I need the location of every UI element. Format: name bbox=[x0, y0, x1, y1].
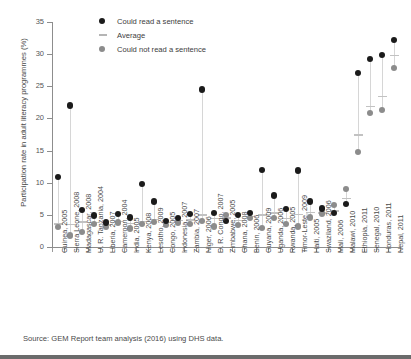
data-point-could-read bbox=[139, 181, 145, 187]
connector-stem bbox=[70, 106, 71, 236]
average-marker bbox=[390, 55, 399, 56]
data-point-could-read bbox=[343, 201, 349, 207]
y-tick-label: 0 bbox=[0, 243, 44, 251]
x-axis-label: Lesotho, 2009 bbox=[157, 207, 164, 253]
data-point-could-read bbox=[199, 86, 205, 92]
x-axis-label: Swaziland, 2006 bbox=[325, 200, 332, 253]
x-axis-label: U. R. Tanzania, 2004 bbox=[97, 186, 104, 253]
y-tick-label: 30 bbox=[0, 50, 44, 58]
x-axis-label: Madagascar, 2008 bbox=[85, 194, 92, 253]
connector-stem bbox=[262, 170, 263, 228]
y-axis-title: Participation rate in adult literacy pro… bbox=[19, 8, 28, 238]
chart-legend: Could read a sentence Average Could not … bbox=[99, 14, 206, 56]
x-axis-label: Timor-Leste, 2009 bbox=[301, 195, 308, 253]
y-tick-label: 25 bbox=[0, 82, 44, 90]
connector-stem bbox=[58, 177, 59, 227]
legend-label-average: Average bbox=[117, 31, 145, 40]
connector-stem bbox=[142, 184, 143, 224]
legend-item-read: Could read a sentence bbox=[99, 14, 206, 28]
x-axis-label: Uganda, 2006 bbox=[277, 208, 284, 253]
average-marker bbox=[366, 106, 375, 107]
x-axis-label: Guinea, 2005 bbox=[61, 210, 68, 253]
x-axis-label: Indonesia, 2007 bbox=[181, 202, 188, 253]
x-axis-label: Zimbabwe, 2005 bbox=[229, 200, 236, 253]
x-axis-label: D. R. Congo, 2007 bbox=[217, 193, 224, 253]
x-tick bbox=[52, 248, 53, 252]
data-point-could-read bbox=[367, 56, 373, 62]
data-point-could-read bbox=[151, 198, 157, 204]
x-axis-label: India, 2005 bbox=[133, 217, 140, 253]
x-axis-label: Congo, 2005 bbox=[169, 212, 176, 253]
data-point-could-not-read bbox=[367, 110, 373, 116]
x-axis-label: Mali, 2006 bbox=[337, 220, 344, 253]
connector-stem bbox=[358, 73, 359, 152]
average-marker bbox=[354, 134, 363, 135]
x-axis-label: Guyana, 2009 bbox=[265, 208, 272, 253]
y-tick-label: 20 bbox=[0, 114, 44, 122]
x-axis-label: Ghana, 2008 bbox=[241, 211, 248, 253]
x-axis-label: Liberia, 2007 bbox=[109, 211, 116, 253]
legend-marker-average-icon bbox=[99, 34, 117, 36]
y-tick-label: 5 bbox=[0, 211, 44, 219]
y-tick-label: 10 bbox=[0, 179, 44, 187]
x-axis-label: Rwanda, 2005 bbox=[289, 207, 296, 253]
data-point-could-read bbox=[295, 167, 301, 173]
data-point-could-not-read bbox=[343, 186, 349, 192]
legend-label-notread: Could not read a sentence bbox=[117, 45, 206, 54]
x-axis-label: Senegal, 2010 bbox=[373, 207, 380, 253]
legend-label-read: Could read a sentence bbox=[117, 17, 193, 26]
data-point-could-not-read bbox=[355, 149, 361, 155]
data-point-could-read bbox=[67, 102, 73, 108]
source-note: Source: GEM Report team analysis (2016) … bbox=[23, 334, 223, 343]
chart-figure: Participation rate in adult literacy pro… bbox=[0, 0, 411, 359]
data-point-could-read bbox=[271, 192, 277, 198]
x-axis-label: Niger, 2006 bbox=[205, 216, 212, 253]
data-point-could-not-read bbox=[391, 65, 397, 71]
data-point-could-read bbox=[259, 167, 265, 173]
average-marker bbox=[342, 198, 351, 199]
x-axis-label: Nepal, 2011 bbox=[397, 215, 404, 253]
x-axis-label: Haiti, 2005 bbox=[313, 219, 320, 253]
x-axis-label: Zambia, 2007 bbox=[193, 209, 200, 253]
data-point-could-read bbox=[55, 174, 61, 180]
data-point-could-read bbox=[355, 70, 361, 76]
x-axis-label: Kenya, 2008 bbox=[145, 213, 152, 253]
average-marker bbox=[378, 96, 387, 97]
legend-item-average: Average bbox=[99, 28, 206, 42]
y-tick-label: 15 bbox=[0, 147, 44, 155]
x-axis-label: Honduras, 2011 bbox=[385, 202, 392, 253]
data-point-could-read bbox=[379, 52, 385, 58]
legend-marker-notread-icon bbox=[99, 46, 117, 52]
legend-item-notread: Could not read a sentence bbox=[99, 42, 206, 56]
x-axis-label: Benin, 2006 bbox=[253, 215, 260, 253]
connector-stem bbox=[382, 55, 383, 110]
connector-stem bbox=[202, 90, 203, 222]
x-axis-label: Sierra Leone, 2008 bbox=[73, 192, 80, 253]
connector-stem bbox=[298, 171, 299, 227]
x-axis-label: Malawi, 2010 bbox=[349, 211, 356, 253]
data-point-could-not-read bbox=[379, 107, 385, 113]
x-axis-label: Ethiopia, 2011 bbox=[361, 208, 368, 253]
x-axis-label: Cameroon, 2004 bbox=[121, 199, 128, 253]
data-point-could-read bbox=[391, 37, 397, 43]
footer-rule bbox=[0, 355, 411, 359]
legend-marker-read-icon bbox=[99, 18, 117, 24]
y-tick-label: 35 bbox=[0, 18, 44, 26]
